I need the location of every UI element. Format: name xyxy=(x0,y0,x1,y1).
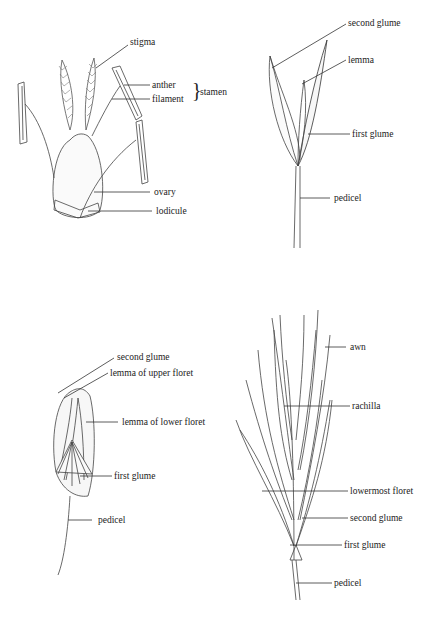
label-pedicel-3: pedicel xyxy=(334,579,361,589)
label-lodicule: lodicule xyxy=(156,207,187,217)
label-second-glume-3: second glume xyxy=(350,514,403,524)
label-lemma-upper-floret: lemma of upper floret xyxy=(110,369,193,379)
label-stamen: stamen xyxy=(200,88,227,98)
label-pedicel-2: pedicel xyxy=(98,516,125,526)
label-first-glume: first glume xyxy=(352,130,393,140)
label-pedicel: pedicel xyxy=(334,194,361,204)
label-stigma: stigma xyxy=(130,38,155,48)
spikelet-two-floret-drawing xyxy=(54,358,118,575)
label-lowermost-floret: lowermost floret xyxy=(350,487,413,497)
label-first-glume-2: first glume xyxy=(114,472,155,482)
floret-drawing xyxy=(18,45,152,218)
label-ovary: ovary xyxy=(154,188,176,198)
label-rachilla: rachilla xyxy=(352,402,380,412)
spikelet-one-floret-drawing xyxy=(269,24,350,248)
label-second-glume-2: second glume xyxy=(117,353,170,363)
grass-spikelet-diagram: stigma anther filament } stamen ovary lo… xyxy=(0,0,438,617)
label-lemma-lower-floret: lemma of lower floret xyxy=(122,418,205,428)
spikelet-multi-floret-drawing xyxy=(236,310,350,600)
label-second-glume: second glume xyxy=(348,19,401,29)
label-filament: filament xyxy=(152,95,184,105)
label-first-glume-3: first glume xyxy=(344,541,385,551)
label-lemma: lemma xyxy=(348,56,374,66)
label-anther: anther xyxy=(152,81,176,91)
label-awn: awn xyxy=(350,343,366,353)
